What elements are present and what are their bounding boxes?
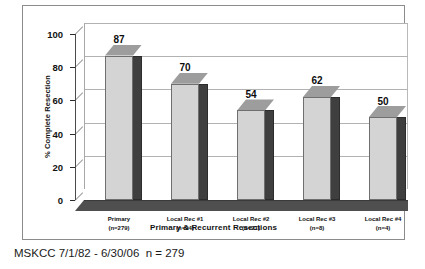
ytick-label-80: 80 <box>52 62 63 73</box>
x-axis-title: Primary & Recurrent Resections <box>23 223 404 232</box>
data-label-4: 50 <box>353 96 413 107</box>
chart-figure: % Complete Resection <box>0 0 425 269</box>
ytick-60: 60 <box>70 100 75 101</box>
bar-front-4 <box>369 117 397 200</box>
value-axis-back-line <box>84 23 85 189</box>
ytick-label-0: 0 <box>58 195 63 206</box>
chart-frame: % Complete Resection <box>22 5 405 240</box>
plot-floor-edge <box>84 200 408 201</box>
data-label-0: 87 <box>89 34 149 45</box>
bar-front-3 <box>303 97 331 200</box>
ytick-40: 40 <box>70 134 75 135</box>
data-label-2: 54 <box>221 89 281 100</box>
bar-side-2 <box>265 110 274 200</box>
ytick-label-100: 100 <box>47 29 63 40</box>
ytick-80: 80 <box>70 67 75 68</box>
plot-area: 100 80 60 40 20 0 <box>75 34 399 200</box>
gridline-100 <box>84 23 408 24</box>
bar-side-1 <box>199 84 208 200</box>
ytick-20: 20 <box>70 167 75 168</box>
ytick-label-60: 60 <box>52 95 63 106</box>
ytick-100: 100 <box>70 34 75 35</box>
plot-floor <box>75 200 408 211</box>
bar-front-1 <box>171 84 199 200</box>
ytick-0: 0 <box>70 200 75 201</box>
bar-side-3 <box>331 97 340 200</box>
bar-front-2 <box>237 110 265 200</box>
ytick-label-40: 40 <box>52 128 63 139</box>
value-axis-line <box>75 34 76 200</box>
figure-caption: MSKCC 7/1/82 - 6/30/06 n = 279 <box>14 247 184 259</box>
data-label-3: 62 <box>287 75 347 86</box>
bar-front-0 <box>105 56 133 200</box>
ytick-label-20: 20 <box>52 161 63 172</box>
data-label-1: 70 <box>155 62 215 73</box>
bar-side-4 <box>397 117 406 200</box>
y-axis-title: % Complete Resection <box>43 57 52 177</box>
bar-side-0 <box>133 56 142 200</box>
